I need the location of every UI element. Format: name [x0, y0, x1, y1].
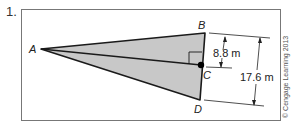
extension-line-b [209, 33, 270, 38]
extension-line-c [206, 67, 232, 68]
triangle-diagram: A B C D 8.8 m 17.6 m [0, 0, 294, 129]
dimension-bd: 17.6 m [240, 71, 274, 83]
arrow-down-bc [219, 62, 223, 68]
label-c: C [203, 69, 211, 81]
dimension-bc: 8.8 m [213, 47, 241, 59]
triangle-abd [41, 33, 205, 100]
label-b: B [198, 19, 205, 31]
point-c-dot [198, 62, 204, 68]
arrow-up-bc [223, 36, 227, 42]
label-a: A [28, 43, 36, 55]
copyright-credit: © Cengage Learning 2013 [282, 36, 289, 118]
label-d: D [194, 103, 202, 115]
arrow-up-bd [258, 37, 262, 43]
